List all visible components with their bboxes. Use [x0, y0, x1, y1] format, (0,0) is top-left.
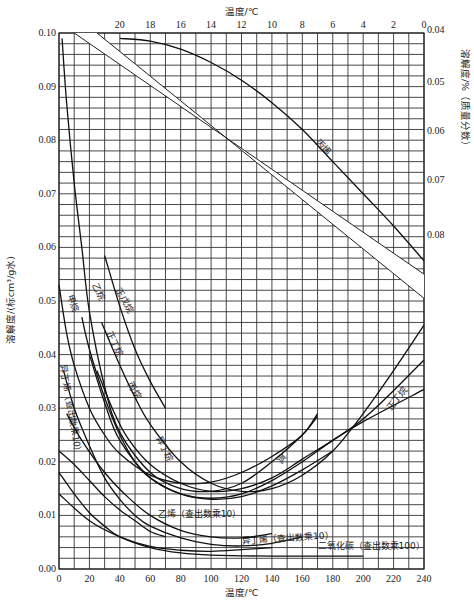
- top-x-tick-label: 18: [145, 19, 155, 30]
- y-tick-label: 0.04: [39, 349, 57, 360]
- series-label: 异丁烯（查出数乘10）: [58, 364, 85, 457]
- top-x-tick-label: 12: [237, 19, 247, 30]
- right-y-tick-label: 0.06: [427, 125, 445, 136]
- y-tick-label: 0.00: [39, 563, 57, 574]
- series-label: 丙烯: [313, 137, 334, 158]
- series-label: 二氧化碳（查出数乘100）: [318, 540, 425, 551]
- top-x-tick-label: 0: [422, 19, 427, 30]
- diagonal-edge: [74, 33, 424, 274]
- x-tick-label: 100: [204, 573, 219, 584]
- top-x-tick-label: 6: [330, 19, 335, 30]
- series-line: [97, 360, 424, 492]
- y-tick-label: 0.03: [39, 402, 57, 413]
- top-x-tick-label: 10: [267, 19, 277, 30]
- top-x-tick-label: 16: [176, 19, 186, 30]
- x-tick-label: 80: [176, 573, 186, 584]
- y-tick-label: 0.07: [39, 188, 57, 199]
- x-tick-label: 120: [234, 573, 249, 584]
- series-line: [64, 371, 303, 546]
- right-y-tick-label: 0.07: [427, 174, 445, 185]
- x-tick-label: 200: [356, 573, 371, 584]
- x-tick-label: 160: [295, 573, 310, 584]
- top-x-tick-label: 14: [206, 19, 216, 30]
- y-tick-label: 0.09: [39, 81, 57, 92]
- series-label: 异丁烷: [155, 434, 176, 463]
- series-label: 甲烷: [65, 293, 81, 314]
- right-y-tick-label: 0.08: [427, 229, 445, 240]
- y-axis-title: 溶解度/(标cm³/g水): [5, 256, 16, 344]
- series-label: 乙烯（查出数乘10）: [158, 508, 241, 519]
- top-axis-title: 温度/℃: [225, 6, 259, 17]
- series-label: 乙烷: [91, 281, 109, 302]
- top-x-tick-label: 8: [300, 19, 305, 30]
- right-y-tick-label: 0.04: [427, 24, 445, 35]
- y-tick-label: 0.10: [39, 27, 57, 38]
- x-tick-label: 140: [264, 573, 279, 584]
- y-tick-label: 0.08: [39, 134, 57, 145]
- right-y-tick-label: 0.05: [427, 76, 445, 87]
- top-x-tick-label: 2: [391, 19, 396, 30]
- top-x-tick-label: 4: [361, 19, 366, 30]
- x-axis-title: 温度/℃: [225, 587, 259, 598]
- x-tick-label: 0: [57, 573, 62, 584]
- right-axis-title: 溶解度/%（质量分数）: [460, 49, 471, 151]
- y-tick-label: 0.02: [39, 456, 57, 467]
- x-tick-label: 240: [417, 573, 432, 584]
- top-x-tick-label: 20: [115, 19, 125, 30]
- series-line: [62, 38, 317, 491]
- y-tick-label: 0.06: [39, 241, 57, 252]
- y-tick-label: 0.05: [39, 295, 57, 306]
- x-tick-label: 180: [325, 573, 340, 584]
- x-tick-label: 40: [115, 573, 125, 584]
- x-tick-label: 220: [386, 573, 401, 584]
- y-tick-label: 0.01: [39, 509, 57, 520]
- solubility-chart: 丙烯甲烷乙烷丙烷氮正戊烷正丁烷正丁烷异丁烷异丁烯（查出数乘10）异丁烯（查出数乘…: [0, 0, 474, 601]
- x-tick-label: 60: [145, 573, 155, 584]
- x-tick-label: 20: [84, 573, 94, 584]
